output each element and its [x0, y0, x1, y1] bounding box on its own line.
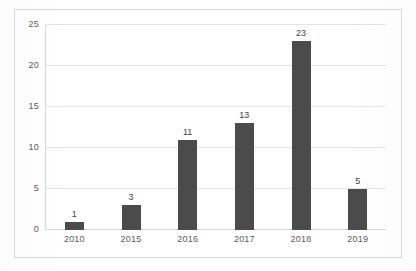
bar-2010[interactable]: 1: [65, 222, 84, 230]
bar-slot: 5: [329, 25, 386, 230]
y-axis-tick-label: 20: [29, 60, 39, 70]
x-axis-tick-label-2010: 2010: [46, 234, 103, 244]
bar-value-label: 3: [128, 192, 133, 202]
x-axis-tick-label-2019: 2019: [329, 234, 386, 244]
bar-2018[interactable]: 23: [292, 41, 311, 230]
x-axis-tick-label-2018: 2018: [273, 234, 330, 244]
bar-2019[interactable]: 5: [348, 189, 367, 230]
bar-slot: 13: [216, 25, 273, 230]
bar-group: 131113235: [46, 25, 386, 230]
y-axis-tick-label: 25: [29, 19, 39, 29]
bar-value-label: 11: [183, 127, 192, 137]
y-axis-tick-label: 10: [29, 142, 39, 152]
bar-2015[interactable]: 3: [122, 205, 141, 230]
x-axis-tick-label-2017: 2017: [216, 234, 273, 244]
bar-2017[interactable]: 13: [235, 123, 254, 230]
bar-slot: 23: [273, 25, 330, 230]
chart-plot-frame: 0510152025 131113235 2010201520162017201…: [14, 9, 402, 258]
x-axis-tick-label-2016: 2016: [159, 234, 216, 244]
bar-value-label: 23: [296, 28, 306, 38]
x-axis-tick-group: 201020152016201720182019: [46, 234, 386, 244]
plot-area: 0510152025 131113235: [46, 25, 386, 230]
bar-value-label: 13: [239, 110, 249, 120]
y-axis-tick-label: 5: [34, 183, 39, 193]
y-axis-tick-label: 15: [29, 101, 39, 111]
bar-slot: 11: [159, 25, 216, 230]
x-axis-tick-label-2015: 2015: [103, 234, 160, 244]
bar-slot: 1: [46, 25, 103, 230]
bar-value-label: 1: [72, 209, 77, 219]
bar-slot: 3: [103, 25, 160, 230]
y-axis-tick-label: 0: [34, 224, 39, 234]
bar-value-label: 5: [355, 176, 360, 186]
bar-2016[interactable]: 11: [178, 140, 197, 230]
